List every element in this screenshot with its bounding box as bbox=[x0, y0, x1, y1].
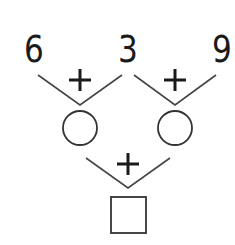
answer-circle-right[interactable] bbox=[158, 111, 192, 145]
answer-square[interactable] bbox=[111, 197, 146, 233]
plus-icon-bottom bbox=[117, 153, 139, 175]
plus-icon-top-right bbox=[164, 69, 186, 91]
addition-tree-diagram bbox=[0, 0, 235, 245]
answer-circle-left[interactable] bbox=[63, 111, 97, 145]
plus-icon-top-left bbox=[69, 69, 91, 91]
